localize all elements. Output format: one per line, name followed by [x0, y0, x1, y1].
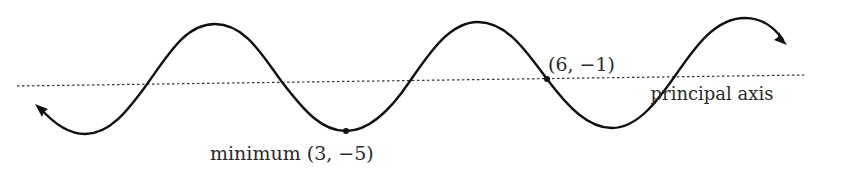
point-6-neg1: [544, 76, 550, 82]
principal-axis-label: principal axis: [651, 83, 774, 104]
sine-curve: [40, 18, 783, 134]
minimum-label: minimum (3, −5): [210, 142, 374, 164]
minimum-point: [343, 128, 349, 134]
point-label: (6, −1): [548, 53, 615, 75]
sinusoid-graph: minimum (3, −5) (6, −1) principal axis: [0, 0, 849, 169]
right-arrow-icon: [774, 32, 787, 45]
